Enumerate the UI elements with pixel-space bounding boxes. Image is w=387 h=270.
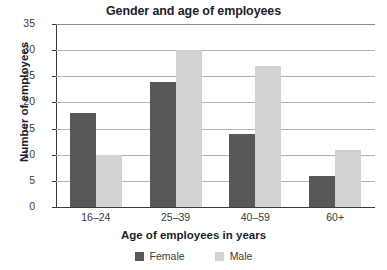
bar-female-25–39 [150, 82, 176, 207]
bar-chart: Gender and age of employees 051015202530… [0, 0, 387, 270]
y-axis-tick [52, 102, 56, 103]
chart-legend: FemaleMale [0, 250, 387, 262]
legend-label: Male [230, 250, 253, 262]
x-axis-title: Age of employees in years [0, 229, 387, 241]
y-axis-tick [52, 181, 56, 182]
y-axis-tick [52, 155, 56, 156]
plot-area: 05101520253035 [56, 24, 375, 207]
legend-item-female[interactable]: Female [135, 250, 185, 262]
gridline [56, 102, 375, 103]
bar-male-60+ [335, 150, 361, 208]
legend-item-male[interactable]: Male [215, 250, 253, 262]
gridline [56, 129, 375, 130]
legend-swatch-icon [135, 252, 144, 261]
y-axis-tick [52, 76, 56, 77]
y-axis-tick [52, 207, 56, 208]
x-axis-tick-label: 16–24 [56, 211, 136, 223]
bar-male-40–59 [255, 66, 281, 207]
legend-swatch-icon [215, 252, 224, 261]
chart-title: Gender and age of employees [0, 4, 387, 18]
x-axis-tick-label: 25–39 [136, 211, 216, 223]
bar-male-25–39 [176, 50, 202, 207]
y-axis-title: Number of employees [18, 22, 30, 182]
legend-label: Female [150, 250, 185, 262]
y-axis-tick [52, 50, 56, 51]
bar-male-16–24 [96, 155, 122, 207]
bar-female-60+ [309, 176, 335, 207]
gridline [56, 50, 375, 51]
x-axis-tick-label: 40–59 [215, 211, 295, 223]
y-axis-tick [52, 24, 56, 25]
x-axis-tick-label: 60+ [295, 211, 375, 223]
y-axis-tick [52, 129, 56, 130]
gridline [56, 24, 375, 25]
gridline [56, 76, 375, 77]
bar-female-16–24 [70, 113, 96, 207]
y-axis-tick-label: 0 [5, 200, 35, 212]
bar-female-40–59 [229, 134, 255, 207]
x-axis-line [56, 207, 375, 208]
